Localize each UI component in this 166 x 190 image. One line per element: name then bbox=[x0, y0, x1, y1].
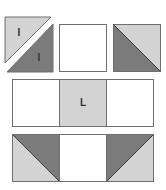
bottom-left-hst-tile bbox=[13, 135, 60, 182]
center-tile-label: L bbox=[80, 98, 86, 108]
bottom-row bbox=[13, 135, 154, 182]
top-right-hst-tile bbox=[114, 25, 161, 72]
quilt-block-diagram: I I L bbox=[0, 0, 166, 190]
top-left-split-tile bbox=[5, 17, 53, 72]
middle-right-tile bbox=[107, 80, 154, 127]
quilt-diagram-canvas bbox=[0, 0, 166, 190]
top-middle-tile bbox=[60, 25, 107, 72]
split-tile-lower-label: I bbox=[38, 53, 41, 63]
bottom-middle-tile bbox=[60, 135, 107, 182]
bottom-right-hst-tile bbox=[107, 135, 154, 182]
split-tile-upper-label: I bbox=[18, 28, 21, 38]
middle-left-tile bbox=[13, 80, 60, 127]
